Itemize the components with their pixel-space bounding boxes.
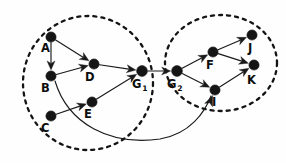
node-label-b: B <box>41 81 50 95</box>
node-g2 <box>172 66 183 77</box>
node-label-f: F <box>206 58 214 72</box>
node-label-e: E <box>84 107 92 121</box>
edge-f-j <box>218 40 240 50</box>
node-label-subscript-g2: 2 <box>177 84 182 93</box>
node-e <box>87 97 97 107</box>
graph-diagram: ABCDEG1G2FIJK <box>0 0 286 163</box>
edge-g2-f <box>182 58 201 68</box>
edge-f-k <box>218 54 241 61</box>
node-i <box>210 85 220 95</box>
cluster-boundary-g2 <box>165 15 277 111</box>
node-g1 <box>137 66 148 77</box>
node-label-d: D <box>85 70 95 84</box>
node-label-i: I <box>212 95 216 109</box>
node-f <box>208 47 218 57</box>
node-j <box>247 30 257 40</box>
edge-g2-i <box>182 74 203 85</box>
arrowheads-layer <box>47 37 249 110</box>
node-label-c: C <box>41 121 50 135</box>
node-label-j: J <box>247 41 252 55</box>
node-label-subscript-g1: 1 <box>142 84 147 93</box>
arrowhead-a-d <box>79 53 89 61</box>
edge-d-g1 <box>99 65 128 69</box>
node-label-k: K <box>247 73 257 87</box>
edge-b-d <box>56 67 81 74</box>
node-label-g1: G1 <box>132 77 148 93</box>
node-label-g2: G2 <box>167 77 183 93</box>
node-d <box>89 59 99 69</box>
node-b <box>46 71 56 81</box>
node-c <box>46 111 56 121</box>
node-label-a: A <box>41 41 50 55</box>
edge-e-g1 <box>97 78 131 99</box>
graph-canvas: ABCDEG1G2FIJK <box>0 0 286 163</box>
node-k <box>249 60 259 70</box>
cluster-boundaries-layer <box>23 15 277 150</box>
edge-i-k <box>220 72 244 87</box>
edge-a-d <box>56 40 83 57</box>
